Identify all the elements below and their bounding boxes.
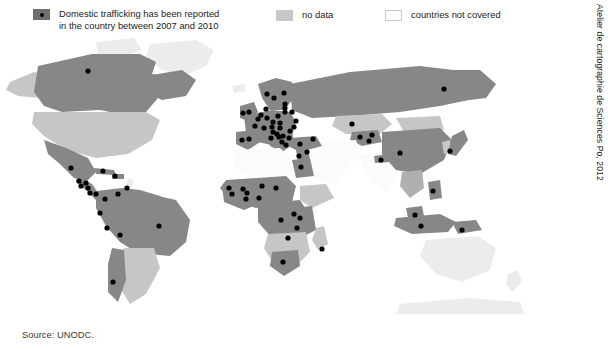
trafficking-dot-south-africa — [280, 259, 285, 264]
legend-label-reported: Domestic trafficking has been reported i… — [59, 8, 219, 33]
trafficking-dot-nigeria — [256, 195, 261, 200]
trafficking-dot-georgia — [310, 136, 315, 141]
trafficking-dot-egypt — [298, 164, 303, 169]
trafficking-dot-finland — [281, 90, 286, 95]
trafficking-dot-lithuania — [282, 109, 287, 114]
trafficking-dot-venezuela — [115, 191, 120, 196]
trafficking-dot-chile — [110, 279, 115, 284]
trafficking-dot-hungary — [277, 125, 282, 130]
source-note: Source: UNODC. — [22, 329, 94, 340]
trafficking-dot-colombia — [102, 196, 107, 201]
legend-swatch-not-covered-icon — [385, 10, 402, 21]
trafficking-dot-bolivia — [117, 232, 122, 237]
trafficking-dot-france — [252, 123, 257, 128]
trafficking-dot-malaysia — [412, 212, 417, 217]
trafficking-dot-philippines — [430, 188, 435, 193]
trafficking-dot-canada — [85, 68, 90, 73]
trafficking-dot-mexico — [68, 165, 73, 170]
trafficking-dot-italy — [268, 135, 273, 140]
legend-swatch-reported-icon — [33, 9, 50, 20]
trafficking-dot-peru — [104, 225, 109, 230]
trafficking-dot-germany — [264, 115, 269, 120]
trafficking-dot-austria — [269, 124, 274, 129]
legend-item-reported: Domestic trafficking has been reported i… — [33, 8, 219, 33]
trafficking-dot-belgium — [255, 116, 260, 121]
world-map — [0, 36, 564, 314]
trafficking-dot-kazakhstan — [349, 121, 354, 126]
trafficking-dot-sweden — [271, 95, 276, 100]
trafficking-dot-japan — [447, 148, 452, 153]
trafficking-dot-honduras — [83, 180, 88, 185]
trafficking-dot-spain — [246, 136, 251, 141]
legend-swatch-no-data-icon — [276, 10, 293, 21]
trafficking-dot-guinea — [229, 191, 234, 196]
trafficking-dot-mauritius — [319, 246, 324, 251]
world-map-svg — [0, 36, 564, 314]
trafficking-dot-guatemala — [76, 178, 81, 183]
trafficking-dot-serbia — [280, 133, 285, 138]
trafficking-dot-syria — [304, 149, 309, 154]
trafficking-dot-kyrgyzstan — [369, 132, 374, 137]
trafficking-dot-brazil — [156, 223, 161, 228]
credit-vertical: Atelier de cartographie de Sciences Po, … — [593, 4, 607, 194]
trafficking-dot-tanzania — [294, 225, 299, 230]
trafficking-dot-bulgaria — [286, 135, 291, 140]
credit-text: Atelier de cartographie de Sciences Po, … — [595, 4, 605, 181]
trafficking-dot-uk — [246, 109, 251, 114]
trafficking-dot-china — [397, 150, 402, 155]
trafficking-dot-nicaragua — [85, 185, 90, 190]
legend-label-not-covered: countries not covered — [411, 9, 501, 21]
trafficking-dot-turkey — [297, 141, 302, 146]
figure-root: Domestic trafficking has been reported i… — [0, 0, 608, 349]
trafficking-dot-czech — [270, 119, 275, 124]
trafficking-dot-niger — [259, 183, 264, 188]
trafficking-dot-zambia — [285, 235, 290, 240]
legend-item-not-covered: countries not covered — [385, 9, 501, 21]
trafficking-dot-png — [459, 227, 464, 232]
trafficking-dot-uzbekistan — [357, 134, 362, 139]
trafficking-dot-nepal — [378, 157, 383, 162]
trafficking-dot-denmark — [263, 106, 268, 111]
trafficking-dot-cuba — [100, 168, 105, 173]
legend-label-no-data: no data — [302, 9, 333, 21]
trafficking-dot-dominican-republic — [112, 173, 117, 178]
trafficking-dot-trinidad — [124, 185, 129, 190]
trafficking-dot-indonesia — [418, 223, 423, 228]
trafficking-dot-uganda — [291, 211, 296, 216]
trafficking-dot-ecuador — [97, 210, 102, 215]
trafficking-dot-kenya — [297, 215, 302, 220]
trafficking-dot-portugal — [239, 137, 244, 142]
trafficking-dot-russia-far-east — [441, 86, 446, 91]
trafficking-dot-senegal — [226, 185, 231, 190]
trafficking-dot-poland — [275, 113, 280, 118]
trafficking-dot-ukraine — [293, 118, 298, 123]
trafficking-dot-burkina — [244, 190, 249, 195]
region-kazakhstan — [332, 114, 392, 134]
legend-item-no-data: no data — [276, 9, 333, 21]
trafficking-dot-moldova — [291, 124, 296, 129]
trafficking-dot-ireland — [240, 110, 245, 115]
trafficking-dot-israel — [296, 153, 301, 158]
trafficking-dot-panama — [93, 191, 98, 196]
legend: Domestic trafficking has been reported i… — [0, 0, 560, 40]
trafficking-dot-mali — [240, 186, 245, 191]
trafficking-dot-belarus — [289, 109, 294, 114]
trafficking-dot-switzerland — [261, 125, 266, 130]
trafficking-dot-tajikistan — [366, 138, 371, 143]
trafficking-dot-drc — [278, 217, 283, 222]
trafficking-dot-romania — [287, 128, 292, 133]
trafficking-dot-costa-rica — [87, 190, 92, 195]
trafficking-dot-norway — [264, 91, 269, 96]
trafficking-dot-slovakia — [277, 120, 282, 125]
trafficking-dot-ghana — [243, 196, 248, 201]
trafficking-dot-chad — [273, 185, 278, 190]
trafficking-dot-el-salvador — [78, 183, 83, 188]
trafficking-dot-greece — [283, 142, 288, 147]
